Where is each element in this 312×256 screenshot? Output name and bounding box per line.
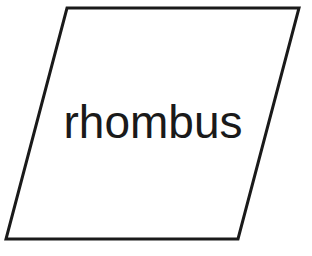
diagram-canvas: rhombus [0, 0, 312, 256]
shape-label: rhombus [64, 96, 243, 148]
